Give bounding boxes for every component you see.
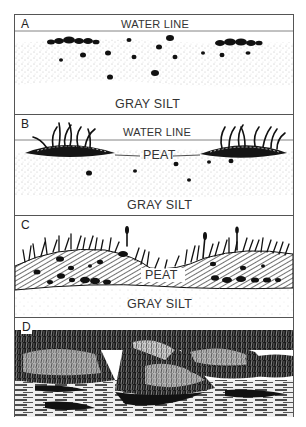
panel-d-letter: D [21,320,32,334]
panel-d: D [15,318,293,417]
panel-b-peat-label: PEAT [143,148,176,162]
panel-d-landscape-illustration [15,318,293,417]
figure-frame: A WATER LINE GRAY SILT [14,14,294,417]
panel-c: C PEAT GRAY SILT [15,216,293,317]
panel-b-gray-silt-label: GRAY SILT [127,198,192,212]
panel-a-letter: A [21,17,29,31]
panel-c-peat-label: PEAT [145,268,178,282]
panel-c-gray-silt-label: GRAY SILT [127,297,192,311]
panel-a-gray-silt-label: GRAY SILT [115,97,180,111]
panel-b-letter: B [21,117,29,131]
panel-c-letter: C [21,218,30,232]
panel-b: B WATER LINE PEAT GRAY SILT [15,115,293,216]
panel-a-water-line-label: WATER LINE [121,18,189,30]
panel-b-water-line-label: WATER LINE [123,126,191,138]
